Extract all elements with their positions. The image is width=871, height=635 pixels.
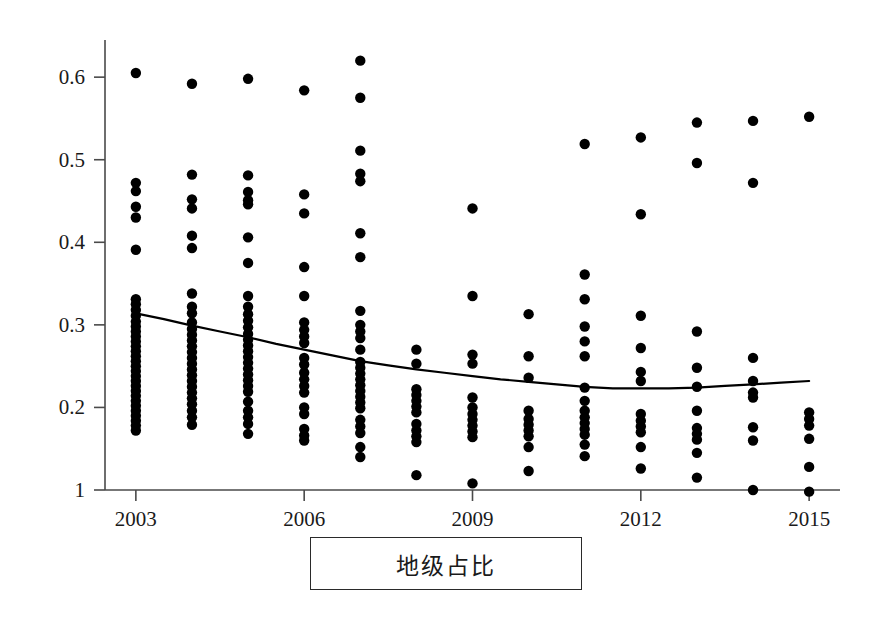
data-point <box>243 74 253 84</box>
data-point <box>523 309 533 319</box>
x-tick-label: 2009 <box>452 507 494 531</box>
data-point <box>692 326 702 336</box>
data-point <box>467 478 477 488</box>
data-point <box>580 351 590 361</box>
data-point <box>187 243 197 253</box>
data-point <box>299 291 309 301</box>
data-point <box>748 116 758 126</box>
data-point <box>299 262 309 272</box>
y-tick-label: 0.6 <box>59 65 85 89</box>
y-tick-label: 0.3 <box>59 313 85 337</box>
data-point <box>355 252 365 262</box>
data-point <box>411 470 421 480</box>
data-point <box>804 486 814 496</box>
data-point <box>355 403 365 413</box>
data-point <box>243 291 253 301</box>
data-point <box>355 333 365 343</box>
y-tick-label: 0.5 <box>59 148 85 172</box>
data-point <box>355 93 365 103</box>
data-point <box>131 68 141 78</box>
data-point <box>692 363 702 373</box>
y-tick-label: 0.4 <box>59 230 86 254</box>
data-point <box>692 434 702 444</box>
caption-label: 地级占比 <box>396 547 496 581</box>
data-point <box>748 353 758 363</box>
data-point <box>748 422 758 432</box>
data-point <box>804 420 814 430</box>
data-point <box>636 209 646 219</box>
data-point <box>467 432 477 442</box>
data-point <box>187 288 197 298</box>
data-point <box>355 176 365 186</box>
x-tick-label: 2015 <box>788 507 830 531</box>
data-point <box>692 158 702 168</box>
data-point <box>580 336 590 346</box>
data-point <box>636 442 646 452</box>
data-point <box>748 435 758 445</box>
data-point <box>355 428 365 438</box>
data-point <box>187 203 197 213</box>
data-point <box>243 199 253 209</box>
data-point <box>187 169 197 179</box>
x-tick-label: 2003 <box>115 507 157 531</box>
data-point <box>804 112 814 122</box>
y-tick-label: 1 <box>75 478 86 502</box>
data-point <box>299 189 309 199</box>
data-point <box>131 425 141 435</box>
y-tick-label: 0.2 <box>59 395 85 419</box>
data-point <box>636 343 646 353</box>
x-tick-label: 2012 <box>620 507 662 531</box>
data-point <box>692 448 702 458</box>
data-point <box>636 367 646 377</box>
data-point <box>636 463 646 473</box>
data-point <box>355 55 365 65</box>
data-point <box>636 427 646 437</box>
data-point <box>467 349 477 359</box>
data-point <box>411 407 421 417</box>
data-point <box>131 186 141 196</box>
data-point <box>243 419 253 429</box>
data-point <box>243 258 253 268</box>
data-point <box>355 228 365 238</box>
data-point <box>355 442 365 452</box>
data-point <box>131 202 141 212</box>
x-tick-label: 2006 <box>283 507 325 531</box>
data-point <box>299 338 309 348</box>
data-point <box>580 439 590 449</box>
data-point <box>692 406 702 416</box>
data-point <box>523 442 533 452</box>
data-point <box>355 145 365 155</box>
data-point <box>467 392 477 402</box>
data-point <box>804 462 814 472</box>
data-point <box>580 321 590 331</box>
data-point <box>355 452 365 462</box>
data-point <box>692 472 702 482</box>
y-axis-ticks: 10.20.30.40.50.6 <box>59 65 105 502</box>
data-point <box>131 212 141 222</box>
data-point <box>523 351 533 361</box>
data-point <box>467 203 477 213</box>
data-point <box>187 420 197 430</box>
figure-root: 10.20.30.40.50.6 20032006200920122015 地级… <box>0 0 871 635</box>
data-point <box>299 208 309 218</box>
data-point <box>523 466 533 476</box>
data-point <box>580 269 590 279</box>
caption-box: 地级占比 <box>310 537 582 590</box>
data-point <box>636 132 646 142</box>
data-point <box>299 435 309 445</box>
data-point <box>748 485 758 495</box>
data-point <box>243 232 253 242</box>
data-point <box>467 291 477 301</box>
data-point <box>187 194 197 204</box>
data-point <box>804 434 814 444</box>
data-point <box>580 429 590 439</box>
data-point <box>411 344 421 354</box>
data-point <box>299 85 309 95</box>
data-point <box>411 358 421 368</box>
data-point <box>580 451 590 461</box>
data-point <box>355 344 365 354</box>
x-axis-ticks: 20032006200920122015 <box>115 490 830 531</box>
data-point <box>355 306 365 316</box>
data-point <box>580 139 590 149</box>
data-point <box>692 117 702 127</box>
